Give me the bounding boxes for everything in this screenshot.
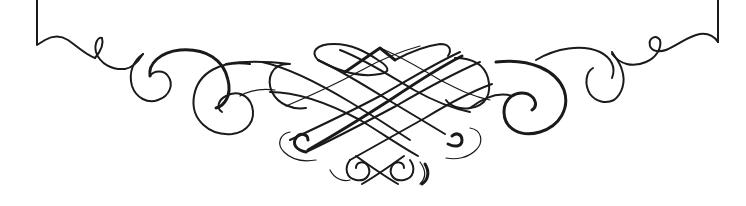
- left-frame-edge: [37, 0, 95, 58]
- right-flourish: [470, 34, 718, 134]
- left-flourish: [95, 38, 290, 134]
- center-lattice: [262, 44, 492, 184]
- calligraphic-flourish-ornament: [0, 0, 746, 206]
